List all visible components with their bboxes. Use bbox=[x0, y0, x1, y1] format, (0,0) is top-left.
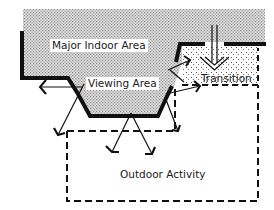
diagram-canvas: Major Indoor Area Viewing Area Transitio… bbox=[0, 0, 274, 210]
major-indoor-area-label: Major Indoor Area bbox=[50, 39, 148, 52]
transition-label: Transition bbox=[201, 73, 252, 84]
viewing-area-label: Viewing Area bbox=[86, 77, 159, 90]
outdoor-activity-label: Outdoor Activity bbox=[120, 169, 205, 180]
